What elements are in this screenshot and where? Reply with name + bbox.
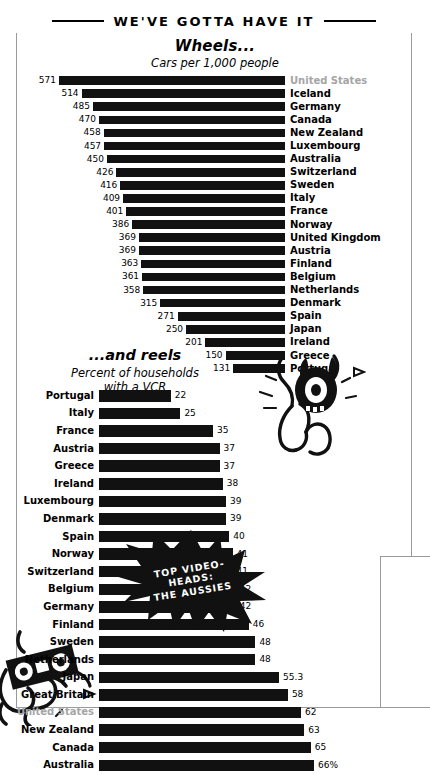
chart-1-bar bbox=[116, 168, 285, 177]
chart-2-bar bbox=[99, 760, 314, 772]
chart-1-value: 315 bbox=[140, 299, 160, 308]
chart-2-category-label: Finland bbox=[0, 620, 99, 630]
chart-1-value-and-bar: 369 bbox=[0, 244, 285, 257]
chart-2-vcr-households: Portugal22Italy25France35Austria37Greece… bbox=[0, 387, 430, 774]
chart-1-bar bbox=[132, 220, 285, 229]
chart-2-bar bbox=[99, 566, 233, 578]
chart-2-category-label: Portugal bbox=[0, 391, 99, 401]
chart-1-cars-per-1000: 571United States514Iceland485Germany470C… bbox=[0, 74, 430, 375]
chart-2-row: Denmark39 bbox=[0, 510, 430, 528]
chart-2-value: 63 bbox=[304, 726, 319, 735]
chart-1-value-and-bar: 485 bbox=[0, 100, 285, 113]
chart-1-value-and-bar: 250 bbox=[0, 323, 285, 336]
chart-1-bar bbox=[104, 129, 285, 138]
chart-1-bar bbox=[82, 89, 285, 98]
chart-1-bar bbox=[160, 299, 285, 308]
chart-2-value: 35 bbox=[213, 426, 228, 435]
chart-2-value: 37 bbox=[220, 444, 235, 453]
chart-1-row: 409Italy bbox=[0, 192, 430, 205]
chart-1-value: 250 bbox=[166, 325, 186, 334]
chart-1-value: 458 bbox=[84, 128, 104, 137]
chart-2-bar bbox=[99, 619, 249, 631]
chart-2-value: 66% bbox=[314, 761, 338, 770]
chart-1-value-and-bar: 450 bbox=[0, 153, 285, 166]
chart-1-bar bbox=[205, 338, 285, 347]
chart-2-value: 62 bbox=[301, 708, 316, 717]
chart-1-value-and-bar: 363 bbox=[0, 257, 285, 270]
chart-1-value: 450 bbox=[87, 155, 107, 164]
chart-2-row: Spain40 bbox=[0, 528, 430, 546]
chart-2-bar bbox=[99, 548, 233, 560]
chart-2-category-label: Norway bbox=[0, 549, 99, 559]
chart-1-row: 416Sweden bbox=[0, 179, 430, 192]
chart-1-bar bbox=[143, 286, 285, 295]
chart-1-row: 514Iceland bbox=[0, 87, 430, 100]
chart-1-value-and-bar: 426 bbox=[0, 166, 285, 179]
chart-2-category-label: Greece bbox=[0, 461, 99, 471]
chart-2-row: New Zealand63 bbox=[0, 721, 430, 739]
chart-2-bar bbox=[99, 408, 180, 420]
chart-2-bar bbox=[99, 584, 236, 596]
chart-1-value-and-bar: 358 bbox=[0, 284, 285, 297]
chart-1-category-label: Ireland bbox=[285, 337, 330, 347]
chart-2-category-label: Italy bbox=[0, 408, 99, 418]
chart-1-category-label: Denmark bbox=[285, 298, 341, 308]
chart-2-bar bbox=[99, 601, 236, 613]
chart-1-value: 571 bbox=[39, 76, 59, 85]
chart-1-value-and-bar: 457 bbox=[0, 139, 285, 152]
chart-1-row: 450Australia bbox=[0, 153, 430, 166]
chart-2-bar bbox=[99, 443, 220, 455]
chart-2-category-label: France bbox=[0, 426, 99, 436]
chart-2-row: Japan55.3 bbox=[0, 669, 430, 687]
chart-1-bar bbox=[107, 155, 285, 164]
chart-1-value: 363 bbox=[121, 259, 141, 268]
chart-1-value-and-bar: 409 bbox=[0, 192, 285, 205]
chart-1-value: 369 bbox=[119, 246, 139, 255]
chart-2-value: 48 bbox=[255, 655, 270, 664]
chart-1-category-label: Sweden bbox=[285, 180, 334, 190]
chart-2-category-label: Spain bbox=[0, 532, 99, 542]
chart-1-row: 571United States bbox=[0, 74, 430, 87]
chart-2-value: 40 bbox=[229, 532, 244, 541]
chart-2-row: Luxembourg39 bbox=[0, 493, 430, 511]
chart-2-category-label: New Zealand bbox=[0, 725, 99, 735]
chart-1-category-label: Iceland bbox=[285, 89, 331, 99]
chart-1-value-and-bar: 315 bbox=[0, 297, 285, 310]
chart-1-value-and-bar: 386 bbox=[0, 218, 285, 231]
chart-2-category-label: Canada bbox=[0, 743, 99, 753]
chart-1-bar bbox=[178, 312, 285, 321]
chart-2-category-label: Austria bbox=[0, 444, 99, 454]
chart-2-value: 41 bbox=[233, 567, 248, 576]
chart-2-subtitle-line-1: Percent of households bbox=[30, 366, 240, 380]
chart-2-bar bbox=[99, 689, 288, 701]
chart-1-row: 361Belgium bbox=[0, 270, 430, 283]
chart-1-bar bbox=[141, 260, 285, 269]
chart-1-bar bbox=[104, 142, 285, 151]
chart-2-category-label: Germany bbox=[0, 602, 99, 612]
chart-2-row: Greece37 bbox=[0, 457, 430, 475]
header-rule-right bbox=[324, 20, 376, 22]
chart-2-title: ...and reels bbox=[30, 348, 240, 364]
chart-1-value: 361 bbox=[122, 272, 142, 281]
chart-1-category-label: Germany bbox=[285, 102, 341, 112]
header-rule-left bbox=[52, 20, 104, 22]
chart-2-value: 37 bbox=[220, 462, 235, 471]
chart-1-row: 358Netherlands bbox=[0, 284, 430, 297]
chart-2-value: 38 bbox=[223, 479, 238, 488]
chart-1-value-and-bar: 458 bbox=[0, 126, 285, 139]
chart-1-value: 358 bbox=[123, 286, 143, 295]
chart-2-value: 39 bbox=[226, 514, 241, 523]
chart-1-category-label: Norway bbox=[285, 220, 332, 230]
chart-2-bar bbox=[99, 513, 226, 525]
chart-1-bar bbox=[142, 273, 285, 282]
page-title: WE'VE GOTTA HAVE IT bbox=[113, 15, 314, 28]
header: WE'VE GOTTA HAVE IT bbox=[16, 9, 412, 33]
chart-2-row: Ireland38 bbox=[0, 475, 430, 493]
chart-1-category-label: Finland bbox=[285, 259, 332, 269]
chart-1-category-label: Japan bbox=[285, 324, 322, 334]
chart-2-row: Australia66% bbox=[0, 756, 430, 774]
chart-1-category-label: Austria bbox=[285, 246, 331, 256]
chart-2-row: Austria37 bbox=[0, 440, 430, 458]
chart-1-heading: Wheels... Cars per 1,000 people bbox=[0, 38, 430, 70]
